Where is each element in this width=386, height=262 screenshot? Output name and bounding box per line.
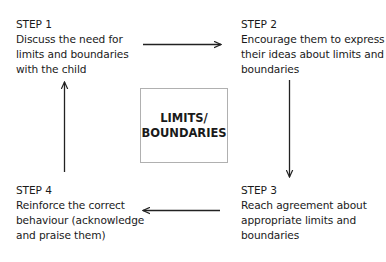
arrows-layer xyxy=(0,0,384,262)
